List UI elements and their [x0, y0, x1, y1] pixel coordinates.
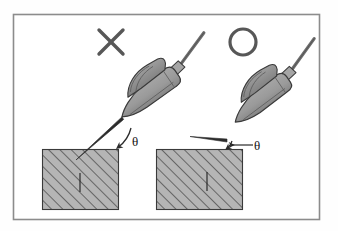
probe-angle-diagram: θ: [0, 0, 338, 231]
workpiece-left: [43, 150, 119, 210]
workpiece-right: [157, 150, 243, 210]
figure-root: θ: [0, 0, 338, 231]
angle-label-left: θ: [132, 134, 138, 149]
angle-label-right: θ: [254, 138, 260, 153]
